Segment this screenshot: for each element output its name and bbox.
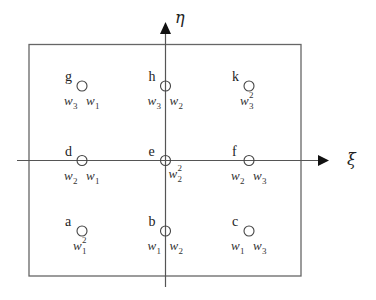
weight-symbol: w: [73, 238, 82, 253]
weight-factor: w3: [64, 93, 78, 111]
weight-symbol: w: [170, 238, 179, 253]
weight-symbol: w: [231, 168, 240, 183]
quadrature-diagram: ξ η gw3w1hw3w2kw32dw2w1ew22fw2w3aw12bw1w…: [0, 0, 376, 300]
weight-symbol: w: [148, 93, 157, 108]
weight-subscript: 1: [157, 246, 162, 256]
weight-factor: w1: [231, 238, 245, 256]
weight-superscript: 2: [178, 163, 183, 173]
weight-factor: w3: [148, 93, 162, 111]
gauss-point-c: cw1w3: [231, 214, 267, 256]
weight-subscript: 3: [249, 101, 254, 111]
weight-factor: w2: [64, 168, 78, 186]
weight-subscript: 3: [157, 101, 162, 111]
weight-factor: w12: [73, 235, 87, 256]
weight-subscript: 1: [82, 246, 87, 256]
xi-axis-label: ξ: [347, 150, 357, 169]
gauss-point-marker: [77, 81, 87, 91]
weight-subscript: 2: [73, 176, 78, 186]
gauss-point-label: g: [65, 69, 72, 84]
weight-symbol: w: [240, 93, 249, 108]
weight-factor: w1: [86, 168, 100, 186]
xi-arrowhead-icon: [318, 155, 329, 166]
weight-symbol: w: [231, 238, 240, 253]
weight-factor: w32: [240, 90, 254, 111]
gauss-point-marker: [244, 226, 254, 236]
gauss-point-label: f: [232, 144, 237, 159]
gauss-point-label: d: [65, 144, 72, 159]
weight-factor: w2: [231, 168, 245, 186]
gauss-point-label: e: [149, 144, 155, 159]
weight-factor: w22: [169, 163, 183, 184]
eta-arrowhead-icon: [160, 22, 171, 34]
weight-factor: w2: [170, 93, 184, 111]
gauss-point-d: dw2w1: [64, 144, 100, 186]
weight-subscript: 2: [179, 101, 184, 111]
weight-symbol: w: [148, 238, 157, 253]
weight-subscript: 1: [95, 176, 100, 186]
gauss-point-label: c: [232, 214, 238, 229]
eta-axis-label: η: [175, 8, 185, 27]
weight-symbol: w: [169, 166, 178, 181]
weight-symbol: w: [253, 168, 262, 183]
weight-subscript: 2: [178, 174, 183, 184]
weight-symbol: w: [64, 168, 73, 183]
weight-factor: w3: [253, 238, 267, 256]
weight-factor: w2: [170, 238, 184, 256]
weight-subscript: 3: [73, 101, 78, 111]
weight-subscript: 3: [262, 246, 267, 256]
gauss-point-label: k: [232, 69, 239, 84]
weight-factor: w1: [148, 238, 162, 256]
weight-symbol: w: [253, 238, 262, 253]
weight-subscript: 1: [240, 246, 245, 256]
weight-factor: w3: [253, 168, 267, 186]
weight-subscript: 1: [95, 101, 100, 111]
gauss-point-f: fw2w3: [231, 144, 267, 186]
weight-superscript: 2: [82, 235, 87, 245]
weight-symbol: w: [86, 168, 95, 183]
gauss-point-label: a: [65, 214, 72, 229]
weight-subscript: 2: [179, 246, 184, 256]
gauss-point-a: aw12: [65, 214, 87, 256]
gauss-point-label: h: [149, 69, 156, 84]
gauss-point-k: kw32: [232, 69, 254, 111]
weight-symbol: w: [170, 93, 179, 108]
weight-subscript: 2: [240, 176, 245, 186]
weight-subscript: 3: [262, 176, 267, 186]
gauss-point-g: gw3w1: [64, 69, 100, 111]
weight-factor: w1: [86, 93, 100, 111]
weight-symbol: w: [64, 93, 73, 108]
weight-symbol: w: [86, 93, 95, 108]
weight-superscript: 2: [249, 90, 254, 100]
gauss-point-label: b: [149, 214, 156, 229]
